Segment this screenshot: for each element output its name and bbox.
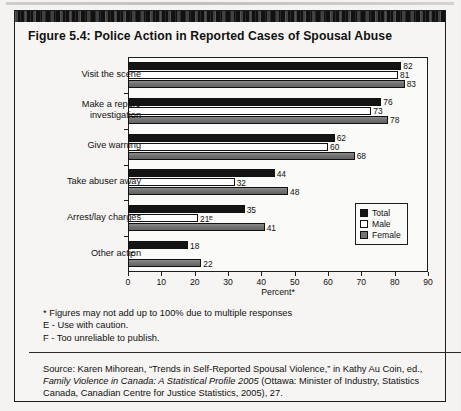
bar-male-2 [128,143,328,151]
bar-male-0 [128,71,398,79]
bar-female-5 [128,259,201,267]
x-axis-tick-2 [195,272,196,276]
figure-notes: * Figures may not add up to 100% due to … [43,307,433,344]
bar-value-female-5: 22 [203,260,212,268]
x-axis-tick-3 [228,272,229,276]
category-label-2: Give warning [0,140,141,151]
bar-total-2 [128,134,335,142]
category-label-1: Make a report/ investigation [0,99,141,120]
x-axis-tick-6 [328,272,329,276]
bar-value-male-1: 73 [373,107,382,115]
x-axis-tick-label-4: 40 [257,277,267,287]
legend-label-female: Female [372,230,401,240]
bar-total-3 [128,169,275,177]
page-top-rule [6,2,454,5]
legend-label-male: Male [372,219,391,229]
x-axis: 0102030405060708090 [128,272,428,273]
bar-value-female-4: 41 [267,224,276,232]
category-label-0: Visit the scene [0,69,141,80]
bar-male-1 [128,107,371,115]
x-axis-tick-label-2: 20 [190,277,200,287]
figure-banner-bar [15,11,445,22]
note-f: F - Too unreliable to publish. [43,332,433,344]
x-axis-tick-0 [128,272,129,276]
x-axis-tick-8 [395,272,396,276]
bar-value-female-2: 68 [357,152,366,160]
figure-source: Source: Karen Mihorean, “Trends in Self-… [43,363,443,400]
y-axis-tick-3 [124,200,128,201]
bar-total-4 [128,205,245,213]
x-axis-tick-1 [161,272,162,276]
x-axis-tick-4 [261,272,262,276]
bar-total-0 [128,62,401,70]
bar-value-male-4: 21ᴱ [200,215,213,223]
x-axis-tick-9 [428,272,429,276]
x-axis-tick-label-7: 70 [357,277,367,287]
bar-female-1 [128,116,388,124]
bar-value-total-5: 18 [190,242,199,250]
x-axis-tick-label-9: 90 [423,277,433,287]
bar-value-female-3: 48 [290,188,299,196]
y-axis-tick-4 [124,236,128,237]
bar-value-female-1: 78 [390,116,399,124]
source-prefix: Source: Karen Mihorean, “Trends in Self-… [43,364,422,374]
bar-value-male-2: 60 [330,143,339,151]
bar-total-1 [128,98,381,106]
legend-item-male: Male [360,219,401,229]
note-e: E - Use with caution. [43,319,433,331]
bar-female-0 [128,80,405,88]
figure-title: Figure 5.4: Police Action in Reported Ca… [28,29,392,43]
x-axis-tick-label-5: 50 [290,277,300,287]
category-label-3: Take abuser away [0,176,141,187]
x-axis-tick-label-1: 10 [157,277,167,287]
bar-value-female-0: 83 [407,80,416,88]
x-axis-title: Percent* [128,287,428,297]
legend-item-total: Total [360,208,401,218]
legend-item-female: Female [360,230,401,240]
bar-value-total-2: 62 [337,134,346,142]
bar-value-total-0: 82 [403,62,412,70]
x-axis-tick-5 [295,272,296,276]
figure-divider [29,352,461,353]
bar-female-4 [128,223,265,231]
bar-value-total-3: 44 [277,170,286,178]
y-axis-tick-2 [124,165,128,166]
bar-male-3 [128,178,235,186]
x-axis-tick-label-6: 60 [323,277,333,287]
bar-female-3 [128,187,288,195]
bar-value-total-1: 76 [383,98,392,106]
legend-label-total: Total [372,208,390,218]
note-asterisk: * Figures may not add up to 100% due to … [43,307,433,319]
y-axis-tick-1 [124,129,128,130]
x-axis-tick-7 [361,272,362,276]
legend-swatch-female-icon [360,231,368,239]
chart-legend: Total Male Female [355,203,408,245]
bar-value-male-0: 81 [400,71,409,79]
x-axis-tick-label-3: 30 [223,277,233,287]
category-label-4: Arrest/lay charges [0,212,141,223]
figure-container: Figure 5.4: Police Action in Reported Ca… [14,10,446,402]
legend-swatch-total-icon [360,209,368,217]
bar-value-male-3: 32 [237,179,246,187]
bar-female-2 [128,152,355,160]
source-italic-title: Family Violence in Canada: A Statistical… [43,376,259,386]
legend-swatch-male-icon [360,220,368,228]
category-label-5: Other action [0,248,141,259]
bar-value-total-4: 35 [247,206,256,214]
x-axis-tick-label-8: 80 [390,277,400,287]
x-axis-tick-label-0: 0 [126,277,131,287]
y-axis-tick-0 [124,93,128,94]
